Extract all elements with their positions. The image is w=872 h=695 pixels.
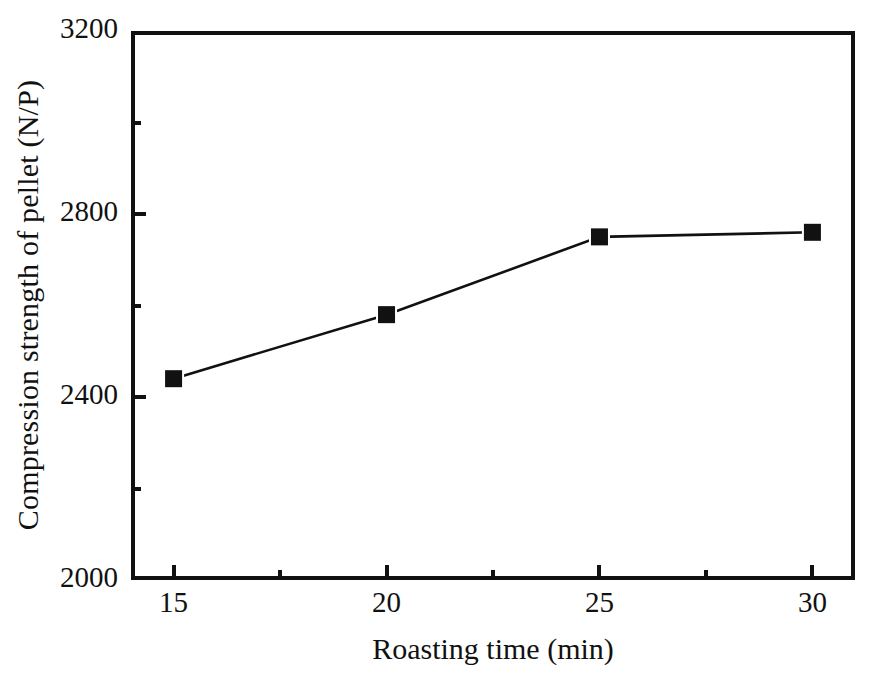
x-axis-title-text: Roasting time (min) bbox=[372, 632, 614, 665]
x-tick-label: 15 bbox=[159, 586, 188, 619]
x-tick-label: 20 bbox=[372, 586, 401, 619]
x-tick-labels: 15202530 bbox=[0, 0, 872, 695]
x-axis-title: Roasting time (min) bbox=[131, 632, 855, 666]
x-tick-label: 25 bbox=[585, 586, 614, 619]
chart-figure: Compression strength of pellet (N/P) 200… bbox=[0, 0, 872, 695]
x-tick-label: 30 bbox=[798, 586, 827, 619]
